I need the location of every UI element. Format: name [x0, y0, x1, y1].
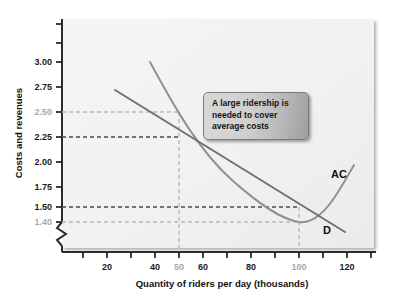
x-tick-label-60: 60 [198, 262, 208, 272]
x-tick-label-80: 80 [246, 262, 256, 272]
x-axis-title: Quantity of riders per day (thousands) [136, 278, 309, 289]
y-tick-label-2.75: 2.75 [34, 82, 52, 92]
y-tick-label-2.50: 2.50 [34, 107, 52, 117]
curve-label-ac: AC [331, 168, 347, 180]
curve-label-d: D [323, 224, 331, 236]
callout-line-3: average costs [212, 121, 301, 133]
chart-canvas: 3.00 2.75 2.50 2.25 2.00 1.75 1.50 1.40 … [0, 0, 396, 298]
x-tick-label-120: 120 [339, 262, 354, 272]
x-tick-label-40: 40 [150, 262, 160, 272]
ridership-callout: A large ridership is needed to cover ave… [203, 92, 309, 140]
x-tick-label-100: 100 [291, 262, 306, 272]
callout-line-2: needed to cover [212, 110, 301, 122]
chart-figure: 3.00 2.75 2.50 2.25 2.00 1.75 1.50 1.40 … [0, 0, 396, 298]
callout-line-1: A large ridership is [212, 98, 301, 110]
y-tick-label-2.25: 2.25 [34, 132, 52, 142]
y-tick-label-3.00: 3.00 [34, 57, 52, 67]
y-tick-label-2.00: 2.00 [34, 157, 52, 167]
y-axis-title: Costs and revenues [13, 88, 24, 178]
x-tick-label-20: 20 [102, 262, 112, 272]
x-tick-label-50: 50 [174, 262, 184, 272]
y-tick-label-1.50: 1.50 [34, 202, 52, 212]
y-tick-label-1.40: 1.40 [34, 217, 52, 227]
y-tick-label-1.75: 1.75 [34, 182, 52, 192]
